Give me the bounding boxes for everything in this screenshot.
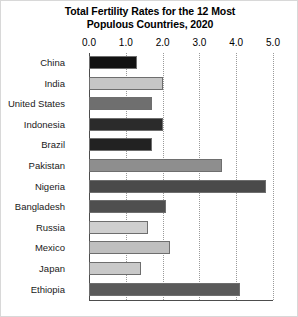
bar-mexico (89, 241, 170, 254)
category-label-pakistan: Pakistan (0, 160, 65, 171)
bar-china (89, 56, 137, 69)
axis-baseline (89, 300, 273, 301)
x-tick-label-2: 2.0 (156, 37, 170, 48)
x-tick-label-4: 4.0 (229, 37, 243, 48)
category-label-indonesia: Indonesia (0, 119, 65, 130)
bar-ethiopia (89, 283, 240, 296)
category-label-japan: Japan (0, 263, 65, 274)
category-label-china: China (0, 57, 65, 68)
x-tick-label-0: 0.0 (82, 37, 96, 48)
category-label-united-states: United States (0, 98, 65, 109)
chart-container: Total Fertility Rates for the 12 Most Po… (0, 0, 298, 317)
plot-area: 0.0 1.0 2.0 3.0 4.0 5.0 China India Unit… (1, 1, 298, 317)
x-tick-label-3: 3.0 (192, 37, 206, 48)
bar-india (89, 77, 163, 90)
category-label-russia: Russia (0, 222, 65, 233)
bar-bangladesh (89, 200, 166, 213)
bar-indonesia (89, 118, 163, 131)
gridline-5 (273, 53, 274, 300)
bar-nigeria (89, 180, 266, 193)
gridline-4 (236, 53, 237, 300)
gridline-3 (199, 53, 200, 300)
category-label-nigeria: Nigeria (0, 181, 65, 192)
bar-japan (89, 262, 141, 275)
category-label-mexico: Mexico (0, 242, 65, 253)
gridline-2 (163, 53, 164, 300)
category-label-ethiopia: Ethiopia (0, 284, 65, 295)
x-tick-label-1: 1.0 (119, 37, 133, 48)
x-tick-label-5: 5.0 (266, 37, 280, 48)
category-label-india: India (0, 78, 65, 89)
bar-pakistan (89, 159, 222, 172)
category-label-bangladesh: Bangladesh (0, 201, 65, 212)
category-label-brazil: Brazil (0, 139, 65, 150)
bar-brazil (89, 138, 152, 151)
bar-united-states (89, 97, 152, 110)
bar-russia (89, 221, 148, 234)
